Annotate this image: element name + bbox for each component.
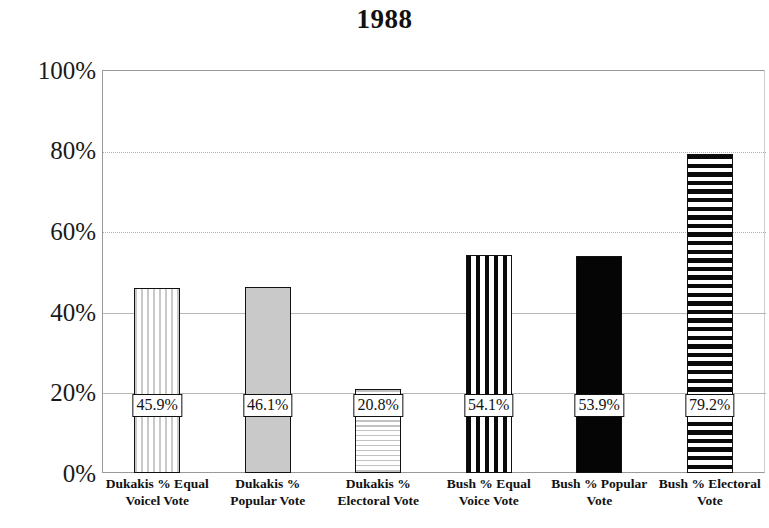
y-axis-tick-0: 0% [0, 461, 96, 486]
x-axis-label-6: Bush % Electoral Vote [655, 476, 766, 510]
bar-series: 45.9% 46.1% 20.8% 54.1% 53.9% 79.2% [102, 70, 765, 473]
x-axis-label-6-line1: Bush % Electoral [655, 476, 766, 493]
y-axis: 100% 80% 60% 40% 20% 0% [0, 0, 96, 528]
bar-column-2: 46.1% [213, 70, 324, 473]
x-axis-label-1: Dukakis % Equal Voicel Vote [102, 476, 213, 510]
chart-title: 1988 [0, 4, 769, 35]
y-axis-tick-20: 20% [0, 380, 96, 405]
bar-value-label-1: 45.9% [133, 394, 182, 417]
x-axis-label-6-line2: Vote [655, 493, 766, 510]
y-axis-tick-80: 80% [0, 138, 96, 163]
chart-page: 1988 100% 80% 60% 40% 20% 0% 45.9% 46.1%… [0, 0, 769, 528]
bar-value-label-5: 53.9% [575, 394, 624, 417]
bar-bush-popular[interactable] [576, 256, 622, 473]
x-axis-label-5-line2: Vote [544, 493, 655, 510]
x-axis-label-1-line1: Dukakis % Equal [102, 476, 213, 493]
x-axis-label-3: Dukakis % Electoral Vote [323, 476, 434, 510]
y-axis-tick-60: 60% [0, 219, 96, 244]
bar-column-5: 53.9% [544, 70, 655, 473]
bar-bush-equal-voice[interactable] [466, 255, 512, 473]
bar-column-6: 79.2% [655, 70, 766, 473]
bar-value-label-4: 54.1% [464, 394, 513, 417]
x-axis-label-3-line1: Dukakis % [323, 476, 434, 493]
x-axis-label-4: Bush % Equal Voice Vote [434, 476, 545, 510]
bar-value-label-2: 46.1% [243, 394, 292, 417]
bar-column-1: 45.9% [102, 70, 213, 473]
bar-value-label-6: 79.2% [685, 394, 734, 417]
x-axis-label-4-line2: Voice Vote [434, 493, 545, 510]
y-axis-tick-40: 40% [0, 300, 96, 325]
x-axis-label-2-line1: Dukakis % [213, 476, 324, 493]
x-axis-label-4-line1: Bush % Equal [434, 476, 545, 493]
x-axis-labels: Dukakis % Equal Voicel Vote Dukakis % Po… [102, 476, 765, 526]
bar-bush-electoral[interactable] [687, 154, 733, 473]
bar-column-3: 20.8% [323, 70, 434, 473]
bar-column-4: 54.1% [434, 70, 545, 473]
x-axis-label-3-line2: Electoral Vote [323, 493, 434, 510]
bar-value-label-3: 20.8% [354, 394, 403, 417]
x-axis-label-5-line1: Bush % Popular [544, 476, 655, 493]
x-axis-label-2: Dukakis % Popular Vote [213, 476, 324, 510]
x-axis-label-2-line2: Popular Vote [213, 493, 324, 510]
bar-dukakis-popular[interactable] [245, 287, 291, 473]
bar-dukakis-equal-voice[interactable] [134, 288, 180, 473]
y-axis-tick-100: 100% [0, 58, 96, 83]
x-axis-label-5: Bush % Popular Vote [544, 476, 655, 510]
x-axis-label-1-line2: Voicel Vote [102, 493, 213, 510]
